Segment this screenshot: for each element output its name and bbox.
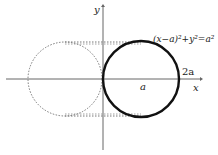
- y-axis-arrow-icon: [101, 4, 105, 7]
- x-axis-arrow-icon: [200, 77, 203, 81]
- equation-label: (x−a)²+y²=a²: [153, 34, 215, 44]
- x-axis-label: x: [193, 82, 199, 93]
- diagram-canvas: y x a 2a (x−a)²+y²=a²: [0, 0, 218, 155]
- right-intercept-label: 2a: [182, 66, 194, 77]
- y-axis-label: y: [93, 4, 100, 15]
- center-label: a: [140, 81, 146, 92]
